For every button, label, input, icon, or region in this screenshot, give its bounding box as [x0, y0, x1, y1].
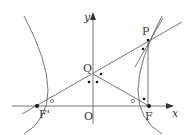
angle-circle-marker — [50, 99, 53, 102]
hyperbola-diagram: y x O P Q F F' — [0, 0, 189, 135]
angle-circle-marker — [131, 99, 134, 102]
line-q-f — [93, 74, 149, 106]
point-p-label: P — [142, 26, 149, 37]
angle-dot — [96, 81, 99, 84]
angle-dot — [88, 81, 91, 84]
angle-dot — [100, 73, 103, 76]
diagram-canvas — [0, 0, 189, 135]
y-axis-arrow-icon — [90, 12, 96, 20]
y-axis-label: y — [84, 12, 90, 23]
point-fprime-label: F' — [39, 109, 50, 120]
point-q-label: Q — [83, 63, 92, 74]
point-f — [147, 104, 151, 108]
origin-label: O — [84, 111, 93, 122]
point-p — [147, 39, 150, 42]
x-axis-label: x — [172, 108, 178, 119]
angle-dot — [142, 48, 145, 51]
angle-dot — [143, 98, 146, 101]
point-f-label: F — [145, 111, 153, 122]
line-fprime-p — [22, 22, 182, 114]
